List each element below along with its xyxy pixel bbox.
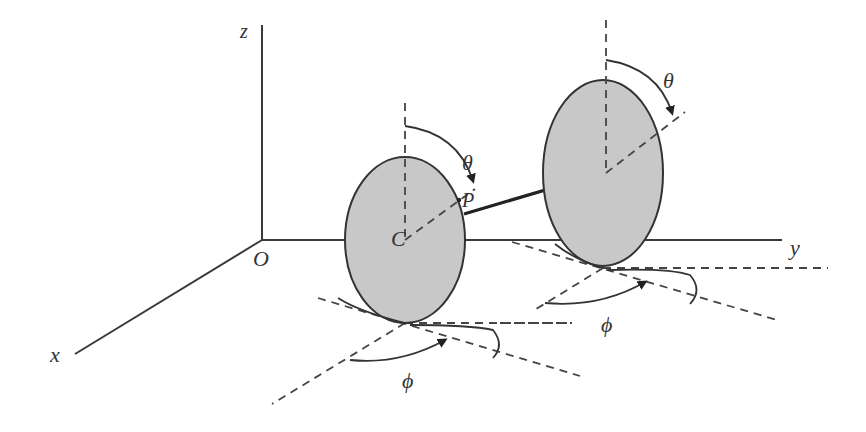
y-axis-label: y <box>788 235 800 260</box>
origin-label: O <box>253 246 269 271</box>
diagram-canvas: z y x O θ P <box>0 0 866 432</box>
left-wheel-phi-arc <box>350 340 445 361</box>
left-center-c-label: C <box>391 226 406 251</box>
left-theta-label: θ <box>462 150 473 175</box>
right-wheel <box>543 20 697 304</box>
left-wheel <box>338 103 499 361</box>
left-point-p-label: P <box>461 189 474 211</box>
right-phi-label: ϕ <box>601 312 612 337</box>
x-axis <box>75 240 262 354</box>
x-axis-label: x <box>49 342 60 367</box>
right-wheel-ground-lines <box>500 242 828 323</box>
right-wheel-phi-arc <box>545 282 645 304</box>
z-axis-label: z <box>239 20 248 42</box>
right-theta-label: θ <box>663 68 674 93</box>
left-wheel-heading-arc <box>410 325 499 358</box>
left-phi-label: ϕ <box>402 368 413 393</box>
